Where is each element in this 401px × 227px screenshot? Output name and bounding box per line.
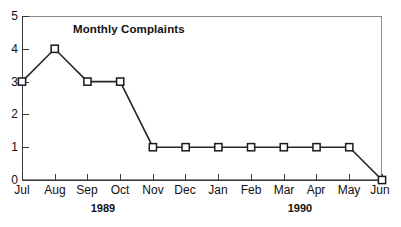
data-point-apr bbox=[313, 144, 320, 151]
data-point-aug bbox=[51, 45, 58, 52]
data-point-jul bbox=[18, 78, 25, 85]
chart-figure: Monthly Complaints 5 4 3 2 1 0 Jul Aug S… bbox=[0, 0, 401, 227]
data-point-may bbox=[346, 144, 353, 151]
data-point-nov bbox=[149, 144, 156, 151]
data-point-oct bbox=[117, 78, 124, 85]
series-line-monthly-complaints bbox=[22, 49, 382, 180]
data-point-mar bbox=[280, 144, 287, 151]
data-point-sep bbox=[84, 78, 91, 85]
series-markers bbox=[18, 45, 385, 183]
data-point-dec bbox=[182, 144, 189, 151]
data-point-feb bbox=[247, 144, 254, 151]
series-layer bbox=[0, 0, 401, 227]
data-point-jun bbox=[378, 176, 385, 183]
data-point-jan bbox=[215, 144, 222, 151]
